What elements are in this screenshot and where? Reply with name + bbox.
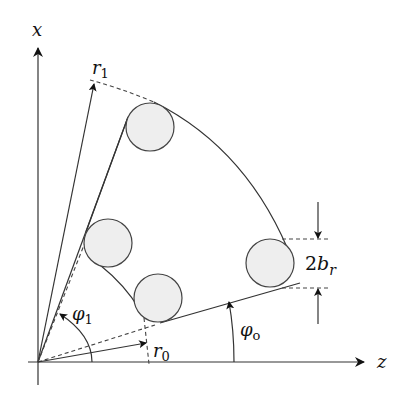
- outer-arc: [154, 102, 293, 262]
- phi0-angle-arc: [229, 302, 234, 362]
- diagram-canvas: x z r1 r0 φ1 φo 2br: [0, 0, 412, 397]
- br-label: 2br: [305, 252, 337, 278]
- r0-dashed-perp: [144, 318, 149, 364]
- conductor-circle-1: [126, 103, 174, 151]
- conductor-circle-2: [84, 219, 132, 267]
- x-axis-label: x: [32, 19, 42, 40]
- phi0-label: φo: [240, 319, 261, 343]
- conductor-circle-3: [134, 274, 182, 322]
- r1-dashed-arc: [90, 80, 154, 102]
- conductor-circle-4: [246, 239, 294, 287]
- phi0-dashed-line: [38, 325, 155, 362]
- z-axis-label: z: [376, 351, 387, 372]
- sector-diagram: x z r1 r0 φ1 φo 2br: [0, 0, 412, 397]
- edge-c1-c2: [86, 117, 128, 232]
- r1-label: r1: [92, 57, 109, 81]
- r0-label: r0: [153, 340, 170, 364]
- phi1-label: φ1: [72, 303, 93, 327]
